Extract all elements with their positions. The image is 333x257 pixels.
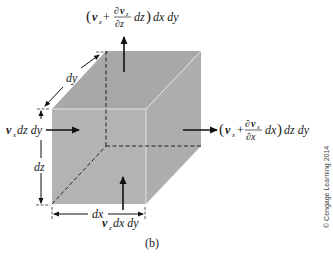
svg-text:z: z [108, 224, 112, 232]
svg-text:): ) [277, 121, 282, 138]
svg-text:∂x: ∂x [246, 131, 256, 142]
svg-text:v: v [6, 123, 12, 137]
bottom-flux-label: v z dx dy [102, 216, 139, 232]
svg-text:v: v [251, 118, 256, 129]
svg-text:∂: ∂ [114, 5, 119, 16]
svg-text:dx dy: dx dy [153, 10, 179, 24]
copyright-notice: © Cengage Learning 2014 [323, 146, 331, 228]
right-flux-label: ( v x + ∂ v x ∂x dx ) dz dy [219, 118, 310, 142]
dz-label: dz [34, 160, 45, 174]
svg-text:+: + [103, 10, 110, 24]
svg-text:v: v [225, 123, 231, 137]
cube-front-face [52, 109, 146, 204]
svg-text:v: v [120, 5, 125, 16]
dy-label: dy [66, 71, 78, 85]
svg-text:∂: ∂ [245, 118, 250, 129]
svg-text:∂z: ∂z [115, 18, 124, 29]
svg-text:x: x [256, 124, 260, 130]
control-volume-diagram: dy dz dx ( v z + ∂ v z ∂z dz ) dx dy v x… [0, 0, 333, 257]
svg-text:dz dy: dz dy [284, 123, 310, 137]
svg-text:v: v [102, 216, 108, 230]
svg-text:z: z [98, 18, 102, 26]
svg-text:dx: dx [265, 123, 277, 137]
svg-text:+: + [237, 123, 244, 137]
svg-text:dx dy: dx dy [113, 216, 139, 230]
svg-text:dz dy: dz dy [17, 123, 43, 137]
svg-text:(: ( [219, 121, 224, 138]
svg-text:): ) [146, 8, 151, 25]
svg-text:dz: dz [134, 10, 145, 24]
svg-text:x: x [231, 131, 236, 139]
svg-text:(: ( [86, 8, 91, 25]
top-flux-label: ( v z + ∂ v z ∂z dz ) dx dy [86, 5, 179, 29]
figure-label: (b) [145, 236, 159, 250]
svg-text:z: z [125, 11, 129, 17]
left-flux-label: v x dz dy [6, 123, 43, 139]
svg-text:v: v [92, 10, 98, 24]
